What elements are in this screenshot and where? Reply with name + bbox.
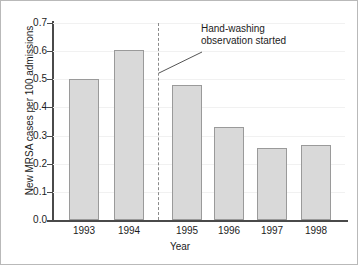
bar-1994 xyxy=(114,50,144,220)
plot-area xyxy=(53,23,345,220)
gridline xyxy=(53,23,345,24)
bar-1996 xyxy=(214,127,244,220)
y-axis-title: New MRSA cases per 100 admissions xyxy=(24,11,35,211)
x-tick-label-1996: 1996 xyxy=(209,225,249,237)
gridline xyxy=(53,51,345,52)
y-tick: 0.0 xyxy=(1,215,47,225)
annotation-line-1: Hand-washing xyxy=(201,23,286,35)
x-tick-label-1993: 1993 xyxy=(64,225,104,237)
bar-1993 xyxy=(69,79,99,220)
x-tick-label-1998: 1998 xyxy=(296,225,336,237)
annotation-hand-washing: Hand-washing observation started xyxy=(201,23,286,47)
bar-1998 xyxy=(301,145,331,220)
x-tick-label-1994: 1994 xyxy=(109,225,149,237)
bar-1995 xyxy=(172,85,202,220)
bar-1997 xyxy=(257,148,287,220)
y-tick-label: 0.0 xyxy=(21,215,47,225)
annotation-line-2: observation started xyxy=(201,35,286,47)
x-tick-label-1997: 1997 xyxy=(252,225,292,237)
x-axis-line xyxy=(47,220,348,222)
hand-washing-event-line xyxy=(158,23,159,220)
x-tick-label-1995: 1995 xyxy=(167,225,207,237)
mrsa-bar-chart-figure: 0.00.10.20.30.40.50.60.7 Hand-washing ob… xyxy=(0,0,358,265)
x-axis-title: Year xyxy=(1,241,358,252)
